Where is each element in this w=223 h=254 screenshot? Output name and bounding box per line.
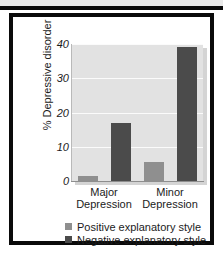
y-axis-tick-labels: 0 10 20 30 40: [31, 44, 69, 181]
x-category-label: Minor Depression: [137, 186, 203, 210]
x-category-label: Major Depression: [71, 186, 137, 210]
y-tick-label: 20: [35, 108, 69, 119]
x-category-line2: Depression: [137, 198, 203, 210]
chart-legend: Positive explanatory style Negative expl…: [65, 220, 215, 246]
bar: [144, 162, 164, 181]
legend-swatch-icon: [65, 223, 72, 230]
gridline: [71, 44, 203, 45]
x-category-line1: Minor: [137, 186, 203, 198]
legend-item: Positive explanatory style: [65, 220, 215, 233]
y-axis-line: [71, 44, 72, 181]
y-tick-label: 0: [35, 176, 69, 187]
x-axis-category-labels: Major Depression Minor Depression: [71, 186, 204, 216]
chart-figure: % Depressive disorder 0 10 20 30 40 Majo…: [0, 0, 223, 254]
x-category-line1: Major: [71, 186, 137, 198]
bar: [177, 47, 197, 181]
x-category-line2: Depression: [71, 198, 137, 210]
y-tick-label: 10: [35, 142, 69, 153]
y-tick-label: 30: [35, 73, 69, 84]
plot-area: [71, 44, 203, 181]
legend-item: Negative explanatory style: [65, 233, 215, 246]
legend-label: Negative explanatory style: [77, 234, 206, 246]
legend-label: Positive explanatory style: [77, 221, 201, 233]
top-divider-rule: [0, 6, 223, 10]
legend-swatch-icon: [65, 236, 72, 243]
y-tick-label: 40: [35, 39, 69, 50]
chart-frame: % Depressive disorder 0 10 20 30 40 Majo…: [9, 13, 214, 245]
x-axis-line: [71, 181, 204, 182]
bar: [111, 123, 131, 181]
